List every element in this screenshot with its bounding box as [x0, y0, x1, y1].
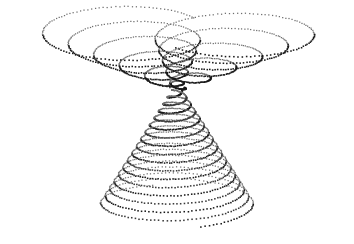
scatter-plot-canvas	[0, 0, 354, 244]
scatter-plot-figure	[0, 0, 354, 244]
